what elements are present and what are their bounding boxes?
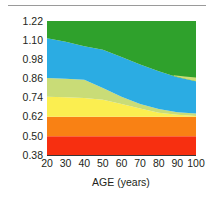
x-tick-label: 20 (41, 157, 53, 169)
x-tick-label: 90 (172, 157, 184, 169)
y-tick-label: 0.98 (23, 53, 44, 65)
y-tick-label: 0.50 (23, 130, 44, 142)
stacked-area-chart: 1.221.100.980.860.740.620.500.38 2030405… (0, 0, 213, 197)
y-tick-label: 1.10 (23, 34, 44, 46)
x-axis-tick-labels: 2030405060708090100 (41, 157, 205, 169)
x-tick-label: 50 (97, 157, 109, 169)
y-tick-label: 1.22 (23, 15, 44, 27)
y-tick-label: 0.62 (23, 110, 44, 122)
figure-container: 1.221.100.980.860.740.620.500.38 2030405… (0, 0, 213, 197)
x-tick-label: 30 (60, 157, 72, 169)
y-tick-label: 0.74 (23, 91, 44, 103)
area-bands-group (47, 21, 196, 155)
y-tick-label: 0.86 (23, 72, 44, 84)
band-orange (47, 117, 196, 137)
x-tick-label: 60 (116, 157, 128, 169)
y-tick-label: 0.38 (23, 149, 44, 161)
band-red (47, 136, 196, 155)
x-tick-label: 80 (153, 157, 165, 169)
x-tick-label: 100 (187, 157, 205, 169)
y-axis-tick-labels: 1.221.100.980.860.740.620.500.38 (23, 15, 44, 161)
x-axis-title: AGE (years) (92, 176, 150, 188)
x-tick-label: 70 (134, 157, 146, 169)
x-tick-label: 40 (78, 157, 90, 169)
